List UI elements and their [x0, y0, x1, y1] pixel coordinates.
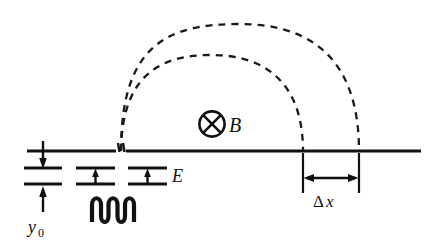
e-arrow-right-head-icon	[144, 169, 151, 178]
capacitor-right-group	[128, 168, 167, 184]
initial-height-variable: y	[26, 217, 36, 237]
electric-field-label: E	[171, 166, 183, 186]
delta-x-arrow-head-left	[304, 174, 315, 182]
e-arrow-middle-head-icon	[92, 169, 99, 178]
capacitor-middle-group	[76, 168, 115, 184]
displacement-variable: x	[325, 192, 334, 211]
delta-x-measure-group: Δ x	[303, 153, 359, 211]
initial-height-label: y 0	[26, 217, 44, 240]
arrow-up-icon	[39, 186, 47, 197]
circle-x-icon	[199, 111, 224, 136]
delta-symbol: Δ	[313, 192, 324, 211]
coil-icon	[92, 198, 134, 222]
launch-tick-left	[118, 143, 120, 152]
magnetic-field-label: B	[229, 114, 241, 136]
launch-tick-right	[123, 143, 125, 152]
initial-height-subscript: 0	[38, 226, 44, 240]
physics-diagram: B y 0	[0, 0, 434, 244]
displacement-label: Δ x	[313, 192, 334, 211]
diagram-canvas: B y 0	[0, 0, 434, 244]
delta-x-arrow-head-right	[348, 174, 359, 182]
double-headed-arrow-icon	[304, 174, 359, 182]
